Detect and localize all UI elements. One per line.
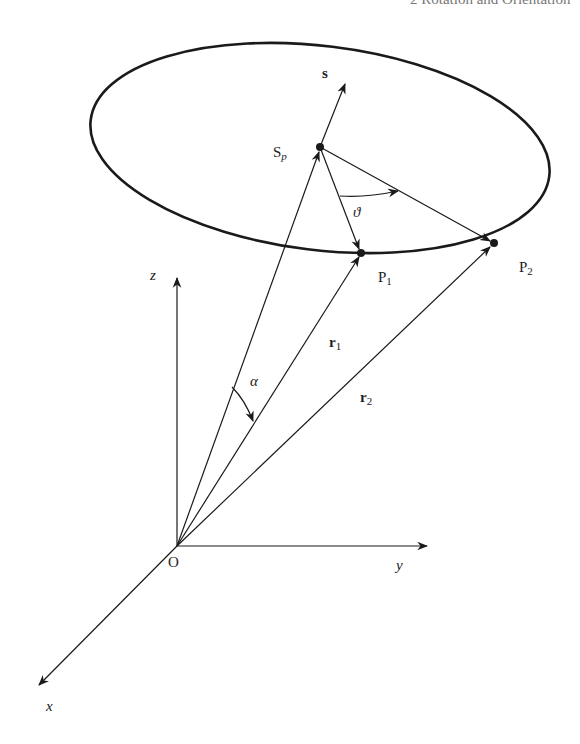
- r2-vector: [177, 247, 490, 546]
- label-s: s: [322, 66, 328, 81]
- rotation-diagram: [0, 0, 580, 744]
- label-alpha: α: [250, 374, 258, 389]
- label-r2-main: r: [360, 389, 367, 405]
- label-z: z: [150, 268, 156, 283]
- s-vector: [320, 84, 345, 147]
- x-axis: [39, 546, 177, 685]
- label-sp-sub: p: [281, 150, 287, 162]
- sp-to-p1: [320, 147, 359, 249]
- label-r1-main: r: [329, 334, 336, 350]
- label-r1-sub: 1: [336, 340, 342, 352]
- label-p1-sub: 1: [386, 275, 392, 287]
- label-p2-sub: 2: [527, 265, 533, 277]
- s-axis: [177, 152, 319, 546]
- point-p2: [490, 239, 498, 247]
- label-r2: r2: [360, 390, 372, 407]
- label-p1: P1: [378, 270, 392, 287]
- point-p1: [357, 249, 365, 257]
- label-r2-sub: 2: [367, 395, 373, 407]
- alpha-arc: [232, 387, 253, 421]
- label-y: y: [396, 558, 403, 573]
- sp-to-p2: [320, 147, 490, 241]
- label-x: x: [46, 699, 53, 714]
- label-sp: Sp: [273, 145, 287, 162]
- label-p2: P2: [519, 260, 533, 277]
- theta-arc: [340, 191, 398, 196]
- point-sp: [316, 143, 324, 151]
- label-theta: ϑ: [353, 205, 360, 220]
- label-r1: r1: [329, 335, 341, 352]
- r1-vector: [177, 257, 359, 546]
- label-origin: O: [168, 555, 179, 570]
